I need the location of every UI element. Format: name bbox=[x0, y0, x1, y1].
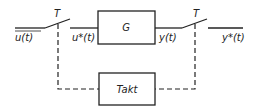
block-G-label: G bbox=[122, 22, 130, 33]
block-takt-label: Takt bbox=[117, 84, 139, 95]
output-switch-label: T bbox=[193, 8, 200, 19]
sampled-system-diagram: T u(t) u*(t) G T y(t) y*(t) Takt bbox=[0, 0, 262, 109]
output-signal-label: y(t) bbox=[158, 32, 177, 43]
sampled-output-label: y*(t) bbox=[221, 32, 245, 43]
input-switch-label: T bbox=[54, 8, 61, 19]
sampled-input-label: u*(t) bbox=[72, 32, 95, 43]
input-signal-label: u(t) bbox=[15, 32, 33, 43]
